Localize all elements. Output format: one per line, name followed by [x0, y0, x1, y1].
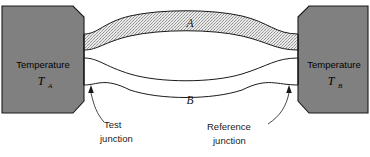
reference-junction-label-line2: junction: [212, 135, 246, 146]
thermocouple-diagram: Temperature T A Temperature T B A B: [0, 0, 370, 157]
test-junction-leader-line: [91, 93, 104, 122]
conductor-a: A: [84, 11, 298, 50]
conductor-b-label: B: [186, 94, 193, 106]
test-junction-arrowhead: [88, 85, 94, 93]
conductor-b-shape: [84, 58, 298, 98]
left-block-title: Temperature: [16, 59, 69, 70]
left-temperature-block: Temperature T A: [2, 6, 84, 113]
reference-junction-leader-line: [268, 93, 289, 124]
test-junction-label-line1: Test: [104, 119, 122, 130]
conductor-a-label: A: [185, 17, 194, 29]
reference-junction-label-line1: Reference: [207, 121, 251, 132]
left-block-subscript: A: [47, 82, 53, 90]
right-block-title: Temperature: [307, 59, 360, 70]
test-junction-callout: Test junction: [88, 85, 133, 144]
conductor-b: B: [84, 58, 298, 106]
reference-junction-arrowhead: [286, 85, 292, 93]
test-junction-label-line2: junction: [99, 133, 133, 144]
right-block-subscript: B: [338, 82, 343, 90]
right-temperature-block: Temperature T B: [298, 6, 368, 113]
